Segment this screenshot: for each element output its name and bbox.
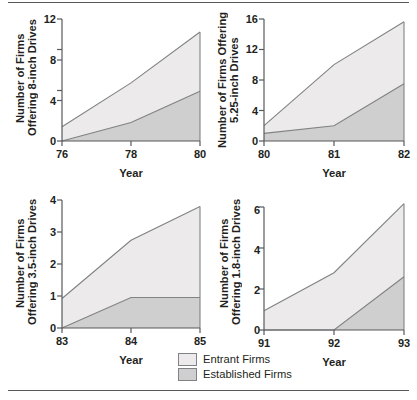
y-axis-label-line1: Number of Firms Offering — [216, 10, 228, 150]
figure-root: Number of Firms Offering 8-inch Drives 1… — [0, 0, 417, 400]
figure-legend: Entrant Firms Established Firms — [178, 352, 292, 381]
y-tick-1-8-inch-3: 6 — [236, 204, 260, 216]
x-axis-title-8-inch: Year — [101, 167, 161, 179]
y-tick-3-5-inch-2: 2 — [32, 258, 56, 270]
x-tick-1-8-inch-2: 93 — [390, 337, 417, 349]
legend-label-entrant-firms: Entrant Firms — [203, 353, 270, 365]
y-tick-3-5-inch-3: 3 — [32, 226, 56, 238]
x-tick-8-inch-0: 76 — [48, 148, 76, 160]
y-axis-label-line1: Number of Firms — [14, 16, 26, 140]
legend-swatch-established-firms — [178, 368, 197, 381]
x-tick-3-5-inch-1: 84 — [117, 335, 145, 347]
legend-swatch-entrant-firms — [178, 353, 197, 366]
x-tick-5-25-inch-1: 81 — [320, 148, 348, 160]
legend-item-established-firms: Established Firms — [178, 367, 292, 381]
y-axis-label-line2: Offering 8-inch Drives — [26, 16, 38, 140]
figure-bottom-rule — [8, 390, 409, 391]
chart-panel-5-25-inch: Number of Firms Offering 5.25-inch Drive… — [208, 0, 417, 185]
y-tick-3-5-inch-4: 4 — [32, 194, 56, 206]
x-axis-title-1-8-inch: Year — [304, 356, 364, 368]
y-tick-5-25-inch-3: 12 — [234, 43, 258, 55]
chart-panel-3-5-inch: Number of Firms Offering 3.5-inch Drives… — [0, 185, 210, 370]
y-tick-5-25-inch-4: 16 — [234, 13, 258, 25]
y-axis-label-line2: Offering 1.8-inch Drives — [230, 201, 242, 325]
x-tick-5-25-inch-2: 82 — [390, 148, 417, 160]
legend-label-established-firms: Established Firms — [203, 368, 292, 380]
y-tick-8-inch-0: 0 — [32, 135, 56, 147]
y-axis-label-1-8-inch: Number of Firms Offering 1.8-inch Drives — [218, 201, 242, 325]
x-axis-title-5-25-inch: Year — [304, 167, 364, 179]
y-axis-label-line1: Number of Firms — [14, 201, 26, 325]
legend-item-entrant-firms: Entrant Firms — [178, 352, 292, 366]
chart-panel-1-8-inch: Number of Firms Offering 1.8-inch Drives… — [208, 185, 417, 370]
y-tick-3-5-inch-0: 0 — [32, 322, 56, 334]
y-axis-label-line1: Number of Firms — [218, 201, 230, 325]
y-axis-label-8-inch: Number of Firms Offering 8-inch Drives — [14, 16, 38, 140]
y-tick-5-25-inch-2: 8 — [234, 74, 258, 86]
y-tick-8-inch-2: 8 — [32, 54, 56, 66]
x-tick-1-8-inch-1: 92 — [320, 337, 348, 349]
y-tick-1-8-inch-2: 4 — [236, 244, 260, 256]
x-tick-1-8-inch-0: 91 — [250, 337, 278, 349]
x-tick-3-5-inch-0: 83 — [48, 335, 76, 347]
chart-panel-8-inch: Number of Firms Offering 8-inch Drives 1… — [0, 0, 210, 185]
x-tick-8-inch-1: 78 — [117, 148, 145, 160]
y-tick-3-5-inch-1: 1 — [32, 290, 56, 302]
x-tick-5-25-inch-0: 80 — [250, 148, 278, 160]
y-tick-5-25-inch-0: 0 — [234, 135, 258, 147]
y-tick-1-8-inch-0: 0 — [236, 324, 260, 336]
y-tick-8-inch-1: 4 — [32, 95, 56, 107]
x-axis-title-3-5-inch: Year — [101, 354, 161, 366]
y-tick-8-inch-3: 12 — [32, 13, 56, 25]
y-tick-5-25-inch-1: 4 — [234, 105, 258, 117]
y-tick-1-8-inch-1: 2 — [236, 284, 260, 296]
